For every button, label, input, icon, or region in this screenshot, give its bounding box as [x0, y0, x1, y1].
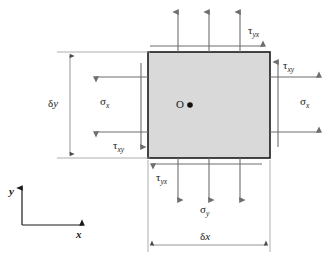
tau-yx-top-label: τyx — [248, 25, 259, 39]
origin-dot — [187, 102, 193, 108]
top-face-stresses — [150, 12, 263, 52]
sigma-x-left-label: σx — [100, 96, 109, 110]
tau-xy-left-label: τxy — [113, 140, 124, 154]
figure-canvas — [0, 0, 326, 270]
right-face-stresses — [270, 62, 319, 147]
stress-element-body — [148, 52, 270, 158]
tau-yx-bottom-label: τyx — [156, 172, 167, 186]
delta-x-label: δx — [200, 231, 210, 242]
y-axis-label: y — [9, 186, 14, 197]
delta-y-label: δy — [48, 98, 58, 109]
tau-xy-right-label: τxy — [283, 60, 294, 74]
x-axis-label: x — [76, 229, 82, 240]
element-rectangle — [148, 52, 270, 158]
stress-element-figure: τyx τxy σx σx τxy τyx σy O δy δx y x — [0, 0, 326, 270]
origin-label: O — [176, 99, 184, 110]
sigma-y-bottom-label: σy — [200, 204, 209, 218]
coordinate-axes — [22, 188, 82, 225]
sigma-x-right-label: σx — [300, 96, 309, 110]
bottom-face-stresses — [153, 158, 262, 200]
